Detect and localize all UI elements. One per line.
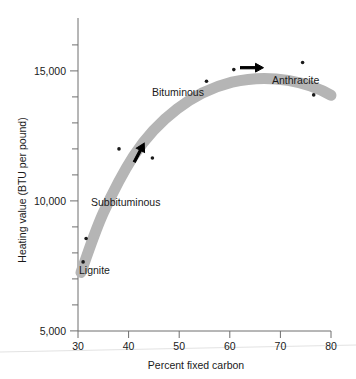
- lignite-label: Lignite: [79, 264, 110, 276]
- data-point-anthracite-2: [312, 93, 316, 97]
- x-tick-label-30: 30: [72, 340, 84, 352]
- x-tick-label-60: 60: [224, 340, 236, 352]
- x-axis-ticks: [78, 331, 331, 338]
- chart-canvas: 15,000 10,000 5,000 30 40 50 60 70 80 Pe…: [0, 0, 356, 379]
- y-tick-label-5000: 5,000: [40, 325, 66, 337]
- data-point-subbituminous-2: [151, 156, 155, 160]
- bituminous-label: Bituminous: [152, 86, 204, 98]
- data-point-subbituminous-1: [117, 147, 121, 151]
- axes-group: [78, 18, 331, 331]
- y-tick-label-10000: 10,000: [34, 195, 66, 207]
- subbituminous-label: Subbituminous: [91, 196, 160, 208]
- x-tick-label-80: 80: [325, 340, 337, 352]
- anthracite-label: Anthracite: [272, 74, 319, 86]
- y-tick-label-15000: 15,000: [34, 65, 66, 77]
- arrow-shaft: [241, 67, 256, 69]
- arrow-head: [256, 63, 264, 72]
- data-point-lignite-2: [84, 237, 88, 241]
- x-tick-label-50: 50: [173, 340, 185, 352]
- data-point-bituminous-1: [205, 80, 209, 84]
- x-axis-title: Percent fixed carbon: [148, 359, 244, 371]
- coal-rank-trend-band: [81, 79, 331, 273]
- data-point-bituminous-2: [232, 68, 236, 72]
- x-tick-label-70: 70: [275, 340, 287, 352]
- y-axis-ticks: [70, 45, 78, 331]
- x-tick-label-40: 40: [123, 340, 135, 352]
- y-axis-title: Heating value (BTU per pound): [16, 117, 28, 262]
- trend-arrow-upper: [241, 63, 264, 72]
- y-tick-labels: 15,000 10,000 5,000: [34, 65, 66, 337]
- data-point-anthracite-1: [301, 61, 305, 65]
- coal-heating-value-chart: 15,000 10,000 5,000 30 40 50 60 70 80 Pe…: [0, 0, 356, 379]
